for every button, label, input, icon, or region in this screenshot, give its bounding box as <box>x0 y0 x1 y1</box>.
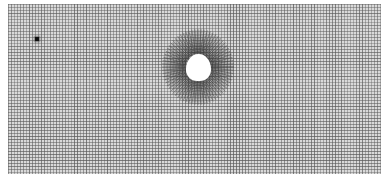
mesh-figure <box>0 0 387 182</box>
background-mesh <box>0 0 387 182</box>
obstacle-hole <box>186 54 211 81</box>
probe-point-marker <box>35 37 39 41</box>
